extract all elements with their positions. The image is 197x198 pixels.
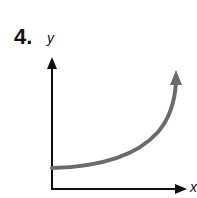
graph: [0, 0, 197, 198]
growth-curve: [52, 82, 176, 168]
curve-arrow-icon: [170, 70, 182, 85]
y-axis-arrow-icon: [47, 57, 57, 69]
x-axis-arrow-icon: [175, 184, 187, 194]
